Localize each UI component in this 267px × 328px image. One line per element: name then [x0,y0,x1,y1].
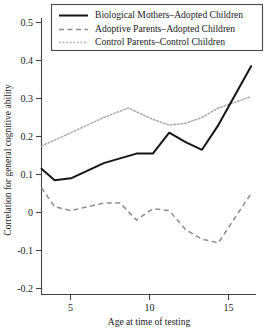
legend-label-2: Control Parents–Control Children [95,36,225,47]
x-axis-title: Age at time of testing [108,317,191,327]
x-tick-label-0: 5 [68,302,73,313]
y-tick-label-6: -0.1 [17,245,33,256]
axis-lines [42,18,257,295]
y-tick-label-7: -0.2 [17,283,33,294]
y-tick-label-0: 0.5 [21,17,34,28]
x-tick-label-1: 10 [145,302,155,313]
x-tick-label-2: 15 [224,302,234,313]
y-tick-label-5: 0 [28,207,33,218]
series-biological-mothers-adopted-children [42,66,252,180]
y-tick-label-1: 0.4 [21,55,34,66]
legend-label-1: Adoptive Parents–Adopted Children [95,23,235,34]
y-tick-label-3: 0.2 [21,131,34,142]
chart-legend: Biological Mothers–Adopted Children Adop… [52,5,263,51]
y-axis-ticks: 0.5 0.4 0.3 0.2 0.1 0 -0.1 -0.2 [17,17,41,294]
chart-svg: 0.5 0.4 0.3 0.2 0.1 0 -0.1 -0.2 5 10 15 … [0,0,267,328]
legend-label-0: Biological Mothers–Adopted Children [95,9,243,20]
x-axis-ticks: 5 10 15 [68,295,234,314]
axes-group [42,18,257,295]
y-tick-label-4: 0.1 [21,169,34,180]
chart-figure: 0.5 0.4 0.3 0.2 0.1 0 -0.1 -0.2 5 10 15 … [0,0,267,328]
series-group [42,66,252,243]
y-axis-title: Correlation for general cognitive abilit… [3,84,13,236]
series-adoptive-parents-adopted-children [42,188,252,243]
y-tick-label-2: 0.3 [21,93,34,104]
